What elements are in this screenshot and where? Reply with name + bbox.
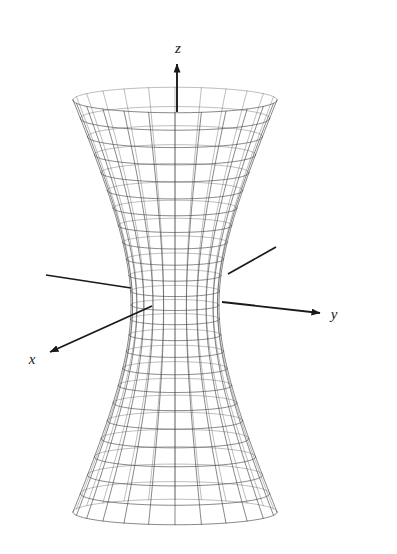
axis-label-y: y <box>329 306 338 322</box>
hyperboloid-figure: zyx <box>0 0 397 554</box>
axis-label-x: x <box>28 351 36 367</box>
surface-plot-svg: zyx <box>0 0 397 554</box>
axis-label-z: z <box>174 40 181 56</box>
